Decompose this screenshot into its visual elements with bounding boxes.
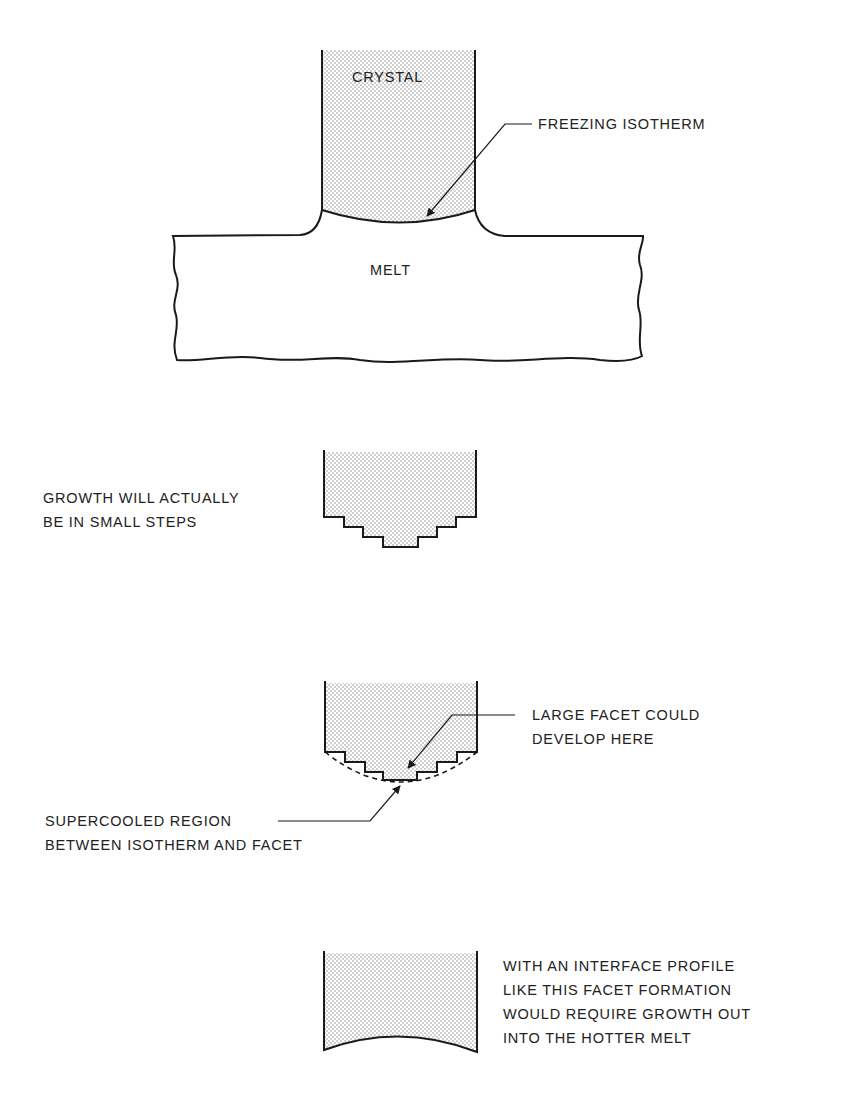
panel-1-crystal-and-melt bbox=[173, 50, 643, 362]
freezing-isotherm-label-text: FREEZING ISOTHERM bbox=[538, 112, 705, 136]
crystal-label: CRYSTAL bbox=[352, 65, 423, 89]
concave-interface-caption: WITH AN INTERFACE PROFILE LIKE THIS FACE… bbox=[503, 954, 751, 1050]
stepped-crystal-body bbox=[324, 452, 476, 547]
melt-label: MELT bbox=[370, 258, 411, 282]
caption-line: WOULD REQUIRE GROWTH OUT bbox=[503, 1002, 751, 1026]
panel-2-stepped-interface bbox=[324, 450, 476, 547]
crystal-label-text: CRYSTAL bbox=[352, 65, 423, 89]
stepped-growth-caption: GROWTH WILL ACTUALLY BE IN SMALL STEPS bbox=[43, 486, 239, 534]
caption-line: BE IN SMALL STEPS bbox=[43, 510, 239, 534]
freezing-isotherm-label: FREEZING ISOTHERM bbox=[538, 112, 705, 136]
melt-label-text: MELT bbox=[370, 258, 411, 282]
caption-line: LARGE FACET COULD bbox=[532, 703, 700, 727]
large-facet-label: LARGE FACET COULD DEVELOP HERE bbox=[532, 703, 700, 751]
caption-line: LIKE THIS FACET FORMATION bbox=[503, 978, 751, 1002]
caption-line: DEVELOP HERE bbox=[532, 727, 700, 751]
supercooled-region-label: SUPERCOOLED REGION BETWEEN ISOTHERM AND … bbox=[45, 809, 303, 857]
caption-line: BETWEEN ISOTHERM AND FACET bbox=[45, 833, 303, 857]
caption-line: GROWTH WILL ACTUALLY bbox=[43, 486, 239, 510]
panel-3-facet-interface bbox=[278, 681, 515, 821]
faceted-crystal-body bbox=[325, 683, 477, 780]
caption-line: SUPERCOOLED REGION bbox=[45, 809, 303, 833]
melt-outline bbox=[173, 210, 643, 362]
panel-4-concave-interface bbox=[324, 951, 477, 1052]
caption-line: WITH AN INTERFACE PROFILE bbox=[503, 954, 751, 978]
diagram-canvas bbox=[0, 0, 861, 1098]
caption-line: INTO THE HOTTER MELT bbox=[503, 1026, 751, 1050]
